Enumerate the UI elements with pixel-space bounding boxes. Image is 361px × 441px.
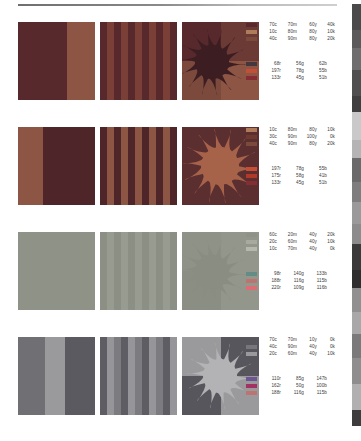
color-swatch bbox=[246, 62, 257, 66]
legend-row: 220r109g116b bbox=[246, 285, 327, 291]
panel-vertical-stripes bbox=[100, 22, 177, 100]
color-band bbox=[18, 127, 43, 205]
row-2: 10c80m80y10k30c90m100y0k40c90m80y20k197r… bbox=[0, 121, 361, 226]
color-swatch bbox=[246, 30, 257, 34]
legend-value-r: 188r bbox=[261, 390, 281, 396]
legend-value-k: 0k bbox=[317, 246, 335, 252]
legend-value-m: 90m bbox=[277, 36, 297, 42]
legend-value-c: 70c bbox=[261, 22, 277, 28]
strip-segment bbox=[352, 334, 361, 358]
legend-value-m: 60m bbox=[277, 351, 297, 357]
color-swatch bbox=[246, 174, 257, 178]
legend-value-r: 197r bbox=[261, 166, 281, 172]
color-swatch bbox=[246, 377, 257, 381]
legend-value-y: 40y bbox=[297, 351, 317, 357]
legend-value-r: 110r bbox=[261, 376, 281, 382]
legend-value-m: 70m bbox=[277, 22, 297, 28]
legend-value-r: 188r bbox=[261, 278, 281, 284]
legend-value-m: 80m bbox=[277, 127, 297, 133]
strip-segment bbox=[352, 4, 361, 30]
legend-value-k: 0k bbox=[317, 344, 335, 350]
legend-value-m: 90m bbox=[277, 141, 297, 147]
legend-row: 20c60m40y10k bbox=[246, 351, 335, 357]
edge-color-strip bbox=[352, 0, 361, 441]
legend-row: 197r78g55b bbox=[246, 166, 327, 172]
strip-segment bbox=[352, 312, 361, 334]
header-rule bbox=[18, 4, 337, 6]
cmyk-legend: 70c70m60y40k10c80m80y10k40c90m80y20k bbox=[246, 22, 335, 43]
color-band bbox=[18, 22, 67, 100]
legend-value-y: 40y bbox=[297, 344, 317, 350]
rgb-legend: 110r85g147b162r50g100b188r116g115b bbox=[246, 376, 327, 397]
strip-segment bbox=[352, 202, 361, 224]
strip-segment bbox=[352, 30, 361, 48]
strip-segment bbox=[352, 112, 361, 140]
legend-value-m: 70m bbox=[277, 246, 297, 252]
legend-value-b: 51b bbox=[304, 75, 327, 81]
strip-segment bbox=[352, 182, 361, 202]
image-panel bbox=[18, 337, 95, 415]
legend-row: 110r85g147b bbox=[246, 376, 327, 382]
legend-value-g: 50g bbox=[281, 383, 304, 389]
legend-value-r: 175r bbox=[261, 173, 281, 179]
legend-value-y: 10y bbox=[297, 337, 317, 343]
legend-value-m: 70m bbox=[277, 337, 297, 343]
legend-row: 133r45g51b bbox=[246, 180, 327, 186]
legend-row: 98r140g133b bbox=[246, 271, 327, 277]
color-swatch bbox=[246, 272, 257, 276]
strip-segment bbox=[352, 158, 361, 182]
legend-value-k: 0k bbox=[317, 134, 335, 140]
legend-value-r: 162r bbox=[261, 383, 281, 389]
legend-value-m: 80m bbox=[277, 29, 297, 35]
legend-value-c: 70c bbox=[261, 337, 277, 343]
panel-vertical-stripes bbox=[100, 337, 177, 415]
color-swatch bbox=[246, 233, 257, 237]
color-swatch bbox=[246, 279, 257, 283]
strip-segment bbox=[352, 96, 361, 112]
panel-split-bands bbox=[18, 127, 95, 205]
strip-segment bbox=[352, 358, 361, 384]
legend-value-g: 85g bbox=[281, 376, 304, 382]
legend-value-c: 10c bbox=[261, 29, 277, 35]
legend-row: 30c90m100y0k bbox=[246, 134, 335, 140]
legend-value-r: 197r bbox=[261, 68, 281, 74]
legend-value-b: 115b bbox=[304, 278, 327, 284]
color-swatch bbox=[246, 69, 257, 73]
image-panel bbox=[100, 127, 177, 205]
legend-row: 175r58g41b bbox=[246, 173, 327, 179]
color-swatch bbox=[246, 76, 257, 80]
panel-vertical-stripes bbox=[100, 232, 177, 310]
legend-value-c: 20c bbox=[261, 239, 277, 245]
legend-row: 40c90m40y0k bbox=[246, 344, 335, 350]
legend-value-r: 133r bbox=[261, 180, 281, 186]
legend-value-r: 68r bbox=[261, 61, 281, 67]
color-swatch bbox=[246, 167, 257, 171]
strip-segment bbox=[352, 288, 361, 312]
image-panel bbox=[100, 232, 177, 310]
color-swatch bbox=[246, 23, 257, 27]
legend-value-g: 116g bbox=[281, 278, 304, 284]
color-swatch bbox=[246, 384, 257, 388]
legend-row: 188r116g115b bbox=[246, 390, 327, 396]
row-4: 70c70m10y0k40c90m40y0k20c60m40y10k110r85… bbox=[0, 331, 361, 436]
legend-value-c: 40c bbox=[261, 141, 277, 147]
legend-row: 10c80m80y10k bbox=[246, 127, 335, 133]
image-panel bbox=[18, 232, 95, 310]
legend-value-g: 45g bbox=[281, 75, 304, 81]
legend-value-g: 56g bbox=[281, 61, 304, 67]
panel-vertical-stripes bbox=[100, 127, 177, 205]
color-band bbox=[67, 22, 95, 100]
legend-value-k: 10k bbox=[317, 127, 335, 133]
legend-value-g: 45g bbox=[281, 180, 304, 186]
color-band bbox=[65, 337, 95, 415]
legend-value-r: 133r bbox=[261, 75, 281, 81]
legend-row: 197r78g55b bbox=[246, 68, 327, 74]
panel-split-bands bbox=[18, 232, 95, 310]
legend-value-g: 109g bbox=[281, 285, 304, 291]
legend-value-b: 51b bbox=[304, 180, 327, 186]
legend-value-m: 20m bbox=[277, 232, 297, 238]
legend-value-g: 140g bbox=[281, 271, 304, 277]
legend-row: 40c90m80y20k bbox=[246, 141, 335, 147]
row-3: 60c20m40y20k20c60m40y10k10c70m40y0k98r14… bbox=[0, 226, 361, 331]
legend-value-y: 80y bbox=[297, 36, 317, 42]
